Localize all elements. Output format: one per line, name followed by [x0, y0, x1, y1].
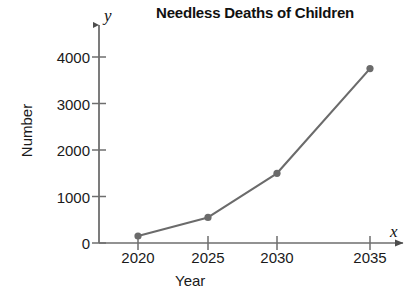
data-markers [134, 65, 373, 240]
data-point-2035 [366, 65, 373, 72]
chart-container: Needless Deaths of Children Number Year … [0, 0, 416, 294]
data-line [138, 69, 370, 236]
data-point-2030 [273, 170, 280, 177]
data-point-2025 [204, 214, 211, 221]
plot-area [0, 0, 416, 294]
data-point-2020 [134, 232, 141, 239]
